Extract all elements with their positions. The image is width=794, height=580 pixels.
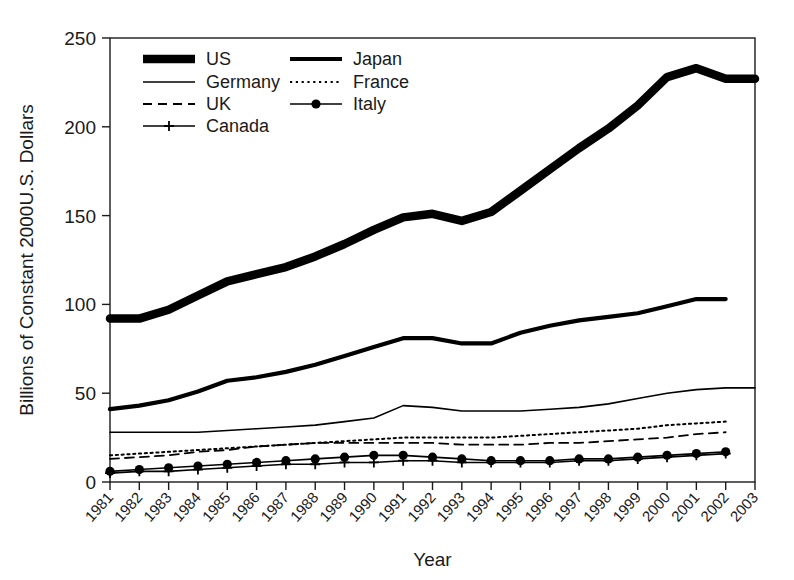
y-tick-label: 200 xyxy=(64,117,96,138)
series-france xyxy=(110,422,726,456)
x-tick-label: 2003 xyxy=(726,489,761,525)
y-tick-label: 0 xyxy=(85,472,96,493)
series-line xyxy=(110,452,726,472)
y-axis-ticks: 050100150200250 xyxy=(64,28,110,493)
y-tick-label: 50 xyxy=(75,383,96,404)
x-axis-title: Year xyxy=(413,549,452,570)
x-axis-ticks: 1981198219831984198519861987198819891990… xyxy=(81,482,761,525)
legend-label: Canada xyxy=(206,116,270,136)
y-tick-label: 100 xyxy=(64,294,96,315)
series-germany xyxy=(110,388,755,432)
chart-container: 050100150200250 198119821983198419851986… xyxy=(0,0,794,580)
x-tick-label: 1995 xyxy=(492,489,527,525)
legend-item-france[interactable]: France xyxy=(290,72,409,92)
line-chart-figure: 050100150200250 198119821983198419851986… xyxy=(0,0,794,580)
series-line xyxy=(110,422,726,456)
x-tick-label: 2000 xyxy=(638,489,673,525)
y-axis-title: Billions of Constant 2000U.S. Dollars xyxy=(16,104,37,416)
x-tick-label: 1994 xyxy=(462,489,497,525)
x-tick-label: 1996 xyxy=(521,489,556,525)
data-series-group xyxy=(105,68,755,478)
x-tick-label: 1981 xyxy=(81,489,116,525)
legend-item-germany[interactable]: Germany xyxy=(143,72,280,92)
legend-label: Japan xyxy=(353,49,402,69)
legend-marker xyxy=(164,121,174,131)
x-tick-label: 1983 xyxy=(140,489,175,525)
x-tick-label: 1992 xyxy=(404,489,439,525)
x-tick-label: 1990 xyxy=(345,489,380,525)
legend-item-us[interactable]: US xyxy=(143,49,231,69)
x-tick-label: 1985 xyxy=(199,489,234,525)
legend-item-japan[interactable]: Japan xyxy=(290,49,402,69)
x-tick-label: 1991 xyxy=(374,489,409,525)
y-tick-label: 250 xyxy=(64,28,96,49)
x-tick-label: 2001 xyxy=(668,489,703,525)
chart-legend: USJapanGermanyFranceUKItalyCanada xyxy=(143,49,409,136)
series-line xyxy=(110,299,726,409)
x-tick-label: 1999 xyxy=(609,489,644,525)
series-line xyxy=(110,388,755,432)
x-tick-label: 1986 xyxy=(228,489,263,525)
x-tick-label: 1982 xyxy=(111,489,146,525)
x-tick-label: 1988 xyxy=(286,489,321,525)
legend-item-canada[interactable]: Canada xyxy=(143,116,270,136)
series-line xyxy=(110,432,726,459)
x-tick-label: 1989 xyxy=(316,489,351,525)
legend-label: Germany xyxy=(206,72,280,92)
legend-item-uk[interactable]: UK xyxy=(143,94,231,114)
series-japan xyxy=(110,299,726,409)
data-point-marker xyxy=(369,457,379,467)
legend-label: Italy xyxy=(353,94,386,114)
x-tick-label: 1993 xyxy=(433,489,468,525)
legend-marker xyxy=(311,99,320,108)
legend-label: US xyxy=(206,49,231,69)
legend-label: France xyxy=(353,72,409,92)
legend-item-italy[interactable]: Italy xyxy=(290,94,386,114)
x-tick-label: 2002 xyxy=(697,489,732,525)
x-tick-label: 1987 xyxy=(257,489,292,525)
y-tick-label: 150 xyxy=(64,206,96,227)
series-uk xyxy=(110,432,726,459)
x-tick-label: 1998 xyxy=(580,489,615,525)
x-tick-label: 1997 xyxy=(550,489,585,525)
x-tick-label: 1984 xyxy=(169,489,204,525)
legend-label: UK xyxy=(206,94,231,114)
